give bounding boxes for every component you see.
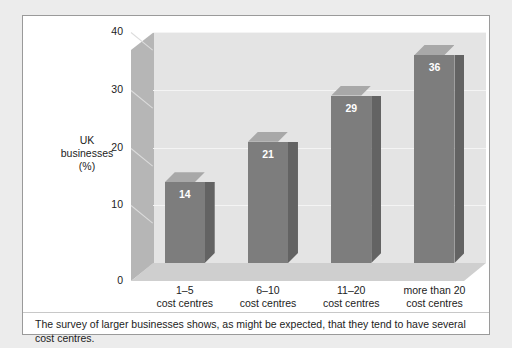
bar-side-face <box>371 96 381 263</box>
bar-chart: UK businesses (%) 0 10 20 30 40 14212936… <box>23 16 489 301</box>
bar-side-face <box>454 55 464 263</box>
bar-side-face <box>205 182 215 263</box>
bar-value-label: 21 <box>248 148 288 160</box>
bar-value-label: 36 <box>414 61 454 73</box>
x-axis-category-label: more than 20 cost centres <box>389 284 479 310</box>
y-tick-label: 40 <box>97 25 123 37</box>
x-axis-category-line-2: cost centres <box>140 297 230 310</box>
figure-frame: UK businesses (%) 0 10 20 30 40 14212936… <box>22 15 490 335</box>
bar: 14 <box>165 182 205 263</box>
figure-caption: The survey of larger businesses shows, a… <box>35 317 479 345</box>
x-axis-category-line-1: 6–10 <box>223 284 313 297</box>
x-axis-category-line-1: 1–5 <box>140 284 230 297</box>
x-axis-category-label: 6–10 cost centres <box>223 284 313 310</box>
gridline <box>153 32 486 33</box>
x-axis-category-line-2: cost centres <box>389 297 479 310</box>
y-tick-label: 0 <box>97 274 123 286</box>
caption-divider <box>23 312 489 313</box>
x-axis-category-line-2: cost centres <box>223 297 313 310</box>
x-axis-category-label: 1–5 cost centres <box>140 284 230 310</box>
bar-value-label: 29 <box>331 102 371 114</box>
bar-side-face <box>288 142 298 263</box>
x-axis-category-line-1: more than 20 <box>389 284 479 297</box>
y-tick-label: 10 <box>97 198 123 210</box>
y-tick-label: 30 <box>97 83 123 95</box>
y-tick-label: 20 <box>97 141 123 153</box>
y-axis-title-line-3: (%) <box>51 160 123 173</box>
plot-box: 14212936 <box>131 32 486 281</box>
x-axis-category-line-2: cost centres <box>306 297 396 310</box>
x-axis-category-line-1: 11–20 <box>306 284 396 297</box>
bar-value-label: 14 <box>165 188 205 200</box>
bar: 29 <box>331 96 371 263</box>
bar-front-face <box>331 96 371 263</box>
x-axis-category-label: 11–20 cost centres <box>306 284 396 310</box>
bar-front-face <box>248 142 288 263</box>
bar: 21 <box>248 142 288 263</box>
bar: 36 <box>414 55 454 263</box>
plot-floor <box>131 263 486 281</box>
bar-front-face <box>414 55 454 263</box>
